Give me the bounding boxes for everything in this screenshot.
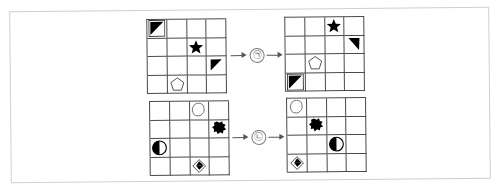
filled-right-triangle-icon [210,59,223,72]
cell-r2c4 [346,116,366,135]
cell-r3c3 [187,56,207,75]
cell-r3c1 [148,57,168,76]
cell-r3c2 [167,57,187,76]
cell-r2c1 [147,38,167,57]
cell-r2c3 [190,120,210,139]
cell-r2c2 [307,117,327,136]
filled-right-triangle-icon [348,37,361,51]
cell-r1c2 [307,98,327,117]
cell-r3c4 [347,135,367,154]
square-with-filled-triangle-icon [148,20,165,37]
cell-r3c1 [150,139,170,158]
cell-r3c2 [170,139,190,158]
cell-r3c3 [327,135,347,154]
cell-r4c3 [190,157,210,176]
cell-r1c4 [344,17,364,36]
cell-r3c4 [345,54,365,73]
cell-r1c3 [327,98,347,117]
cell-r3c4 [210,138,230,157]
outline-pentagon-icon [307,56,322,71]
cell-r1c2 [167,20,187,39]
cell-r2c3 [327,117,347,136]
filled-blob-icon [211,120,227,136]
outline-pentagon-icon [169,76,184,91]
cell-r3c3 [325,54,345,73]
cell-r1c3 [187,19,207,38]
top-transformation-connector: ㉠ [231,46,284,65]
transformation-label-bottom: ㉡ [251,129,266,144]
cell-r4c4 [210,157,230,176]
top-right-grid [284,16,365,92]
outline-blob-icon [191,103,206,118]
cell-r3c1 [287,135,307,154]
cell-r4c1 [148,75,168,94]
cell-r1c1 [147,20,167,39]
bottom-left-grid [149,100,230,176]
cell-r2c2 [170,120,190,139]
arrow-right-icon [231,51,248,60]
diamond-with-filled-triangle-icon [192,158,207,173]
cell-r3c1 [286,54,306,73]
cell-r4c1 [151,157,171,176]
diamond-with-filled-triangle-icon [289,155,304,170]
cell-r1c1 [285,17,305,36]
bottom-transformation-connector: ㉡ [232,128,285,147]
cell-r3c2 [307,135,327,154]
cell-r4c4 [345,72,365,91]
cell-r1c3 [325,17,345,36]
half-filled-circle-icon [328,136,344,152]
transformation-figure: ㉠ [0,0,502,193]
cell-r4c2 [168,75,188,94]
cell-r1c2 [305,17,325,36]
cell-r2c3 [187,38,207,57]
cell-r1c4 [209,101,229,120]
cell-r2c4 [209,120,229,139]
cell-r3c4 [207,56,227,75]
cell-r1c3 [190,101,210,120]
cell-r2c1 [150,120,170,139]
cell-r1c4 [207,19,227,38]
cell-r4c2 [306,73,326,92]
cell-r3c2 [305,54,325,73]
cell-r2c1 [287,117,307,136]
filled-star-icon [327,18,342,33]
bottom-right-grid [286,97,367,173]
arrow-right-icon [232,133,249,142]
cell-r2c4 [345,35,365,54]
cell-r2c2 [167,38,187,57]
cell-r4c1 [286,73,306,92]
cell-r1c2 [170,102,190,121]
cell-r4c3 [327,154,347,173]
cell-r4c4 [207,75,227,94]
transformation-label-top: ㉠ [250,47,265,62]
filled-star-icon [189,39,204,54]
cell-r3c3 [190,138,210,157]
cell-r4c1 [288,154,308,173]
cell-r1c1 [150,102,170,121]
cell-r2c2 [305,36,325,55]
cell-r4c2 [307,154,327,173]
cell-r4c4 [347,153,367,172]
cell-r4c3 [187,75,207,94]
top-left-grid [146,18,227,94]
outline-blob-icon [289,100,304,115]
scanned-page: ㉠ [0,0,502,193]
filled-blob-icon [308,118,324,134]
arrow-right-icon [267,50,284,59]
cell-r4c3 [325,73,345,92]
cell-r1c1 [287,98,307,117]
cell-r2c4 [207,38,227,57]
cell-r2c3 [325,36,345,55]
cell-r1c4 [346,98,366,117]
cell-r2c1 [285,36,305,55]
arrow-right-icon [268,132,285,141]
half-filled-circle-icon [152,140,168,156]
square-with-filled-triangle-icon [287,73,304,90]
cell-r4c2 [170,157,190,176]
